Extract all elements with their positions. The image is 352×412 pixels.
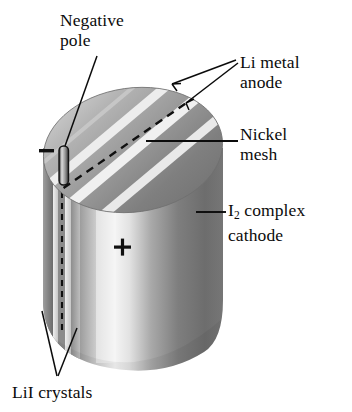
label-i2-cathode-rest: complex cathode <box>228 200 305 245</box>
label-nickel-mesh: Nickel mesh <box>240 124 287 164</box>
negative-terminal-pin <box>59 146 69 185</box>
label-i2-complex-cathode: I2 complex cathode <box>228 200 305 245</box>
label-negative-pole: Negative pole <box>60 10 124 50</box>
figure-canvas: Negative pole Li metal anode Nickel mesh… <box>0 0 352 412</box>
arrowhead-anode-1 <box>172 84 181 92</box>
negative-pole-marker <box>39 149 54 152</box>
label-li-metal-anode: Li metal anode <box>240 52 300 92</box>
label-lii-crystals: LiI crystals <box>12 382 92 402</box>
terminal-capsule <box>59 146 69 185</box>
